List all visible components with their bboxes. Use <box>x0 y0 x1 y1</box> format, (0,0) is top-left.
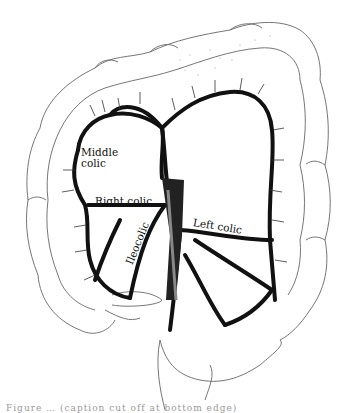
label-middle-colic: Middle colic <box>81 147 121 169</box>
colon-arterial-diagram <box>0 0 341 413</box>
figure-caption-cutoff: Figure … (caption cut off at bottom edge… <box>6 403 336 413</box>
label-right-colic: Right colic <box>95 196 152 207</box>
stipple-shading <box>179 35 270 75</box>
